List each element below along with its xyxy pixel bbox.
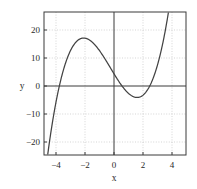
- x-tick-label-2: 2: [141, 160, 146, 170]
- y-tick-label-neg10: −10: [26, 109, 41, 119]
- y-tick-label-neg20: −20: [26, 137, 41, 147]
- x-axis-title: x: [112, 173, 117, 183]
- cubic-function-plot: 20 10 0 −10 −20 −4 −2 0 2 4 y x: [0, 0, 197, 189]
- y-tick-label-20: 20: [31, 25, 41, 35]
- chart-figure: 20 10 0 −10 −20 −4 −2 0 2 4 y x: [0, 0, 197, 189]
- x-tick-label-neg4: −4: [51, 160, 61, 170]
- x-tick-label-0: 0: [112, 160, 117, 170]
- x-tick-label-4: 4: [170, 160, 175, 170]
- y-tick-label-10: 10: [31, 53, 41, 63]
- chart-background: [0, 0, 197, 189]
- y-tick-label-0: 0: [36, 81, 41, 91]
- y-axis-title: y: [20, 81, 25, 91]
- x-tick-label-neg2: −2: [80, 160, 90, 170]
